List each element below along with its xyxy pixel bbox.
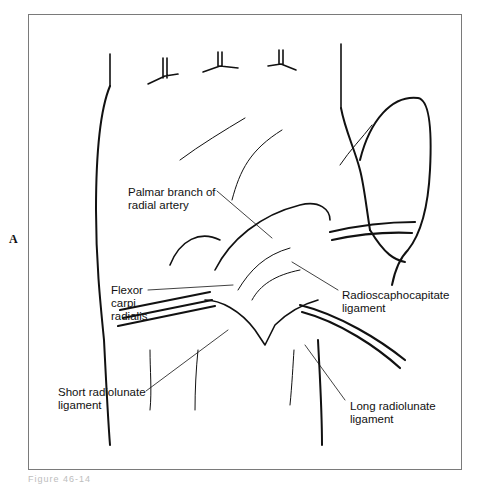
finger-crease-marks — [110, 44, 341, 108]
label-palmar-branch-radial-artery: Palmar branch of radial artery — [128, 186, 216, 212]
label-flexor-carpi-radialis: Flexor carpi radialis — [111, 284, 147, 323]
surgical-exposure — [170, 204, 330, 345]
figure-caption: Figure 46-14 — [28, 474, 91, 484]
leader-lines — [146, 191, 345, 400]
label-radioscaphocapitate-ligament: Radioscaphocapitate ligament — [342, 289, 449, 315]
label-short-radiolunate-ligament: Short radiolunate ligament — [58, 386, 146, 412]
label-long-radiolunate-ligament: Long radiolunate ligament — [350, 400, 436, 426]
palm-creases — [150, 118, 372, 410]
